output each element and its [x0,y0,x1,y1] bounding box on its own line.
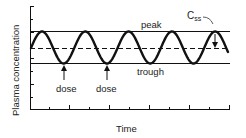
concentration-curve [31,32,228,64]
css-label-subscript: ss [194,15,202,22]
x-axis [30,105,230,110]
css-leader-line [203,17,213,24]
dose-arrow-1 [61,65,67,80]
dose-label-1: dose [56,83,77,94]
css-arrow [212,34,218,48]
dose-label-2: dose [96,83,117,94]
x-axis-ticks [50,105,230,109]
css-label-main: C [187,10,194,21]
y-axis [30,6,34,110]
steady-state-concentration-diagram: peak trough Css dose dose Time Plasma co… [0,0,246,138]
peak-label: peak [141,19,162,30]
trough-label: trough [137,66,164,77]
dose-arrow-2 [104,65,110,80]
y-axis-label: Plasma concentration [10,25,21,116]
x-axis-label: Time [116,123,137,134]
css-label: Css [187,10,202,22]
